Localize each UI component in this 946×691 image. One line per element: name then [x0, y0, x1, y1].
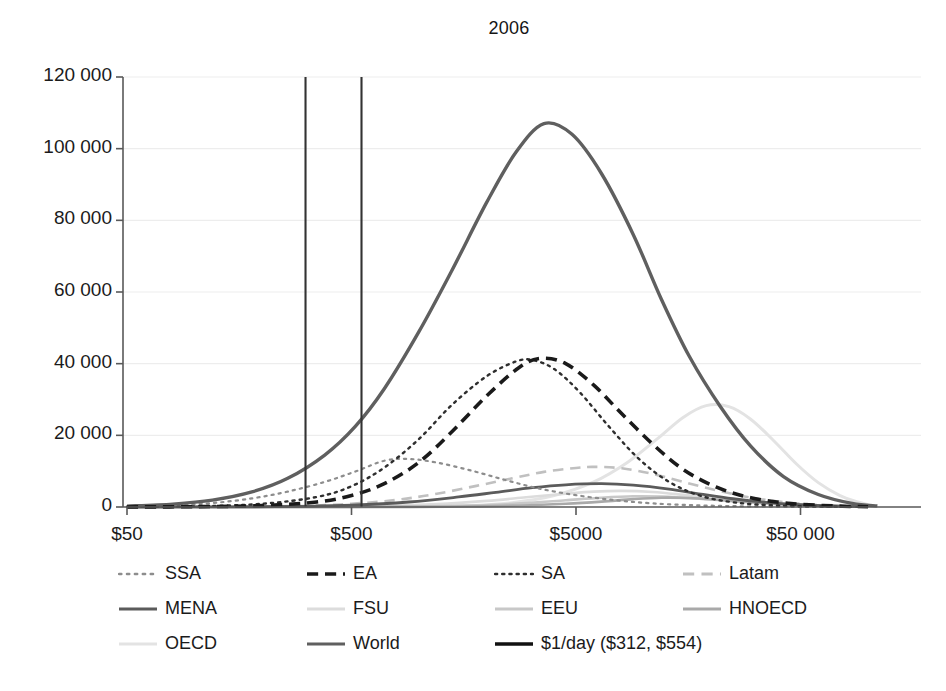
x-tick-label: $500: [330, 523, 372, 545]
legend-row: OECDWorld$1/day ($312, $554): [118, 626, 918, 661]
legend-label: World: [353, 633, 400, 654]
y-tick-label: 100 000: [8, 136, 112, 158]
legend-swatch-icon: [682, 602, 722, 616]
legend-label: Latam: [729, 563, 779, 584]
chart-figure: 2006 020 00040 00060 00080 000100 000120…: [0, 0, 946, 691]
legend-item-fsu[interactable]: FSU: [306, 598, 494, 619]
legend-label: SA: [541, 563, 565, 584]
legend-item-eeu[interactable]: EEU: [494, 598, 682, 619]
y-tick-label: 80 000: [8, 207, 112, 229]
series-line-world: [127, 123, 877, 506]
legend-item-1-day-312-554[interactable]: $1/day ($312, $554): [494, 633, 794, 654]
legend-swatch-icon: [118, 602, 158, 616]
legend-swatch-icon: [306, 602, 346, 616]
legend-label: EA: [353, 563, 377, 584]
legend-item-world[interactable]: World: [306, 633, 494, 654]
legend-swatch-icon: [306, 567, 346, 581]
x-tick-label: $5000: [550, 523, 603, 545]
series-line-ea: [127, 358, 868, 507]
y-tick-label: 0: [8, 494, 112, 516]
x-tick-label: $50: [111, 523, 143, 545]
legend-label: EEU: [541, 598, 578, 619]
legend-row: SSAEASALatam: [118, 556, 918, 591]
legend-item-oecd[interactable]: OECD: [118, 633, 306, 654]
legend-item-ssa[interactable]: SSA: [118, 563, 306, 584]
legend-row: MENAFSUEEUHNOECD: [118, 591, 918, 626]
legend-item-hnoecd[interactable]: HNOECD: [682, 598, 870, 619]
legend-label: FSU: [353, 598, 389, 619]
legend-swatch-icon: [494, 602, 534, 616]
legend-swatch-icon: [494, 567, 534, 581]
legend-label: MENA: [165, 598, 217, 619]
legend-label: $1/day ($312, $554): [541, 633, 702, 654]
legend-item-latam[interactable]: Latam: [682, 563, 870, 584]
legend-swatch-icon: [118, 567, 158, 581]
legend-item-ea[interactable]: EA: [306, 563, 494, 584]
y-tick-label: 120 000: [8, 64, 112, 86]
legend-swatch-icon: [682, 567, 722, 581]
legend-item-sa[interactable]: SA: [494, 563, 682, 584]
series-line-sa: [127, 359, 868, 507]
y-tick-label: 60 000: [8, 279, 112, 301]
y-tick-label: 20 000: [8, 422, 112, 444]
axes: [116, 77, 921, 515]
legend-swatch-icon: [494, 637, 534, 651]
legend-label: HNOECD: [729, 598, 807, 619]
series-lines: [127, 123, 877, 507]
y-tick-label: 40 000: [8, 351, 112, 373]
legend-item-mena[interactable]: MENA: [118, 598, 306, 619]
chart-legend: SSAEASALatamMENAFSUEEUHNOECDOECDWorld$1/…: [118, 556, 918, 661]
legend-label: SSA: [165, 563, 201, 584]
legend-swatch-icon: [118, 637, 158, 651]
legend-swatch-icon: [306, 637, 346, 651]
legend-label: OECD: [165, 633, 217, 654]
x-tick-label: $50 000: [766, 523, 835, 545]
